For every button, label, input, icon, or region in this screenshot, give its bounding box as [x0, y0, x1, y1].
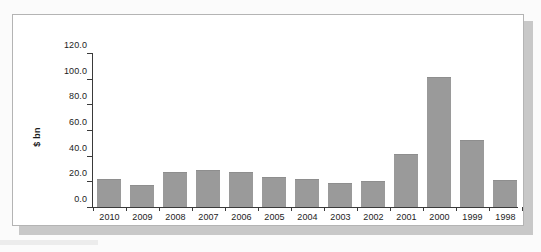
- bar-slot: [192, 53, 225, 207]
- x-axis-tick-label: 2000: [423, 212, 456, 222]
- y-axis-tick-label: 20.0: [69, 168, 87, 178]
- y-axis-tick-mark: [87, 207, 92, 208]
- y-axis-tick-mark: [87, 79, 92, 80]
- x-axis-tick-labels: 2010200920082007200620052004200320022001…: [93, 212, 518, 228]
- bar[interactable]: [460, 140, 484, 207]
- x-axis-tick-label: 2007: [192, 212, 225, 222]
- bar[interactable]: [229, 172, 253, 207]
- bar[interactable]: [262, 177, 286, 207]
- y-axis-title-label: $ bn: [32, 127, 42, 146]
- x-axis-tick-mark: [324, 207, 325, 211]
- y-axis-tick-label: 0.0: [74, 194, 87, 204]
- bar-slot: [423, 53, 456, 207]
- bar-slot: [159, 53, 192, 207]
- bar[interactable]: [295, 179, 319, 207]
- bar-slot: [489, 53, 522, 207]
- y-axis-tick-mark: [87, 104, 92, 105]
- y-axis-tick-label: 120.0: [64, 40, 87, 50]
- x-axis-tick-mark: [291, 207, 292, 211]
- x-axis-tick-mark: [456, 207, 457, 211]
- bar-slot: [225, 53, 258, 207]
- y-axis-tick-label: 40.0: [69, 143, 87, 153]
- x-axis-tick-mark: [159, 207, 160, 211]
- plot-area: [93, 53, 518, 207]
- bar-slot: [324, 53, 357, 207]
- x-axis-tick-mark: [126, 207, 127, 211]
- figure-frame: $ bn 0.020.040.060.080.0100.0120.0 20102…: [12, 14, 524, 226]
- x-axis-tick-mark: [225, 207, 226, 211]
- bar-slot: [258, 53, 291, 207]
- x-axis-tick-mark: [192, 207, 193, 211]
- y-axis-tick-mark: [87, 130, 92, 131]
- x-axis-tick-label: 2003: [324, 212, 357, 222]
- x-axis-tick-label: 2010: [93, 212, 126, 222]
- y-axis-tick-mark: [87, 181, 92, 182]
- y-axis-tick-label: 100.0: [64, 66, 87, 76]
- bar[interactable]: [163, 172, 187, 207]
- bar-chart: $ bn 0.020.040.060.080.0100.0120.0 20102…: [13, 15, 523, 225]
- x-axis-tick-label: 2002: [357, 212, 390, 222]
- bar[interactable]: [328, 183, 352, 207]
- bar-slot: [126, 53, 159, 207]
- x-axis-tick-label: 2005: [258, 212, 291, 222]
- x-axis-tick-mark: [489, 207, 490, 211]
- x-axis-tick-label: 2004: [291, 212, 324, 222]
- x-axis-tick-label: 2009: [126, 212, 159, 222]
- x-axis-tick-mark: [93, 207, 94, 211]
- x-axis-line: [92, 207, 518, 208]
- y-axis-title: $ bn: [27, 107, 47, 167]
- bar[interactable]: [493, 180, 517, 207]
- x-axis-tick-mark: [522, 207, 523, 211]
- bar[interactable]: [394, 154, 418, 207]
- x-axis-tick-mark: [390, 207, 391, 211]
- bar[interactable]: [97, 179, 121, 207]
- bar-slot: [390, 53, 423, 207]
- x-axis-tick-mark: [357, 207, 358, 211]
- y-axis-tick-mark: [87, 53, 92, 54]
- x-axis-tick-label: 1999: [456, 212, 489, 222]
- bar[interactable]: [361, 181, 385, 207]
- x-axis-tick-label: 2008: [159, 212, 192, 222]
- y-axis-tick-label: 60.0: [69, 117, 87, 127]
- x-axis-tick-mark: [258, 207, 259, 211]
- y-axis-tick-mark: [87, 156, 92, 157]
- bar-slot: [357, 53, 390, 207]
- bar-slot: [456, 53, 489, 207]
- bar[interactable]: [196, 170, 220, 207]
- x-axis-tick-mark: [423, 207, 424, 211]
- y-axis-tick-label: 80.0: [69, 91, 87, 101]
- bar[interactable]: [130, 185, 154, 207]
- bar[interactable]: [427, 77, 451, 207]
- y-axis-tick-labels: 0.020.040.060.080.0100.0120.0: [47, 45, 87, 205]
- x-axis-tick-label: 2006: [225, 212, 258, 222]
- bar-slot: [93, 53, 126, 207]
- scan-artifact-streak: [0, 240, 98, 245]
- x-axis-tick-label: 2001: [390, 212, 423, 222]
- bar-slot: [291, 53, 324, 207]
- x-axis-tick-label: 1998: [489, 212, 522, 222]
